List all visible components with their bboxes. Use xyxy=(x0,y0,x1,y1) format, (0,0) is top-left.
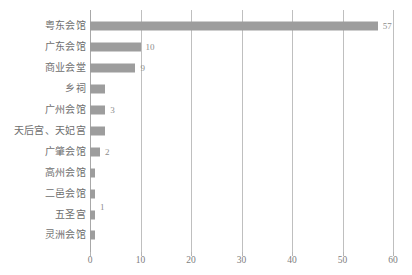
x-axis-tick-label: 20 xyxy=(186,256,196,266)
bar xyxy=(90,126,105,135)
bar-row: 3 xyxy=(90,100,393,121)
bar-chart: 粤东会馆广东会馆商业会堂乡祠广州会馆天后宫、天妃宫广肇会馆高州会馆二邑会馆五圣宫… xyxy=(0,0,412,275)
bar-row xyxy=(90,183,393,204)
x-axis-tick-label: 30 xyxy=(237,256,247,266)
bar xyxy=(90,22,378,31)
bar xyxy=(90,147,100,156)
category-label: 粤东会馆 xyxy=(45,16,86,37)
bar-row xyxy=(90,121,393,142)
bar-row xyxy=(90,79,393,100)
bar xyxy=(90,85,105,94)
x-axis-tick-label: 0 xyxy=(88,256,93,266)
bar xyxy=(90,189,95,198)
bar xyxy=(90,168,95,177)
x-axis-tick-label: 50 xyxy=(338,256,348,266)
bar-row: 57 xyxy=(90,16,393,37)
category-label: 二邑会馆 xyxy=(45,183,86,204)
bar-value-label: 1 xyxy=(100,202,105,211)
bar-value-label: 57 xyxy=(383,22,392,31)
bar xyxy=(90,231,95,240)
bar-value-label: 3 xyxy=(110,106,115,115)
bar-row: 9 xyxy=(90,58,393,79)
x-axis-labels: 0102030405060 xyxy=(90,256,393,272)
category-label: 广州会馆 xyxy=(45,100,86,121)
gridline-60 xyxy=(393,10,394,252)
category-label: 广东会馆 xyxy=(45,37,86,58)
category-label: 五圣宫 xyxy=(55,204,86,225)
bar-row xyxy=(90,162,393,183)
bar-row xyxy=(90,225,393,246)
category-label: 广肇会馆 xyxy=(45,141,86,162)
x-axis-tick-label: 60 xyxy=(388,256,398,266)
bar xyxy=(90,210,95,219)
bar-value-label: 10 xyxy=(146,43,155,52)
category-axis: 粤东会馆广东会馆商业会堂乡祠广州会馆天后宫、天妃宫广肇会馆高州会馆二邑会馆五圣宫… xyxy=(0,10,86,252)
bar-row: 2 xyxy=(90,141,393,162)
bar xyxy=(90,106,105,115)
x-axis-tick-label: 40 xyxy=(287,256,297,266)
category-label: 灵洲会馆 xyxy=(45,225,86,246)
category-label: 天后宫、天妃宫 xyxy=(14,121,86,142)
category-label: 商业会堂 xyxy=(45,58,86,79)
plot-area: 57109321 xyxy=(90,10,393,252)
x-axis-tick-label: 10 xyxy=(136,256,146,266)
bar-row: 10 xyxy=(90,37,393,58)
bar-value-label: 9 xyxy=(140,64,145,73)
bar-row: 1 xyxy=(90,204,393,225)
bar xyxy=(90,43,141,52)
bar xyxy=(90,64,135,73)
category-label: 高州会馆 xyxy=(45,162,86,183)
bar-value-label: 2 xyxy=(105,147,110,156)
category-label: 乡祠 xyxy=(65,79,86,100)
